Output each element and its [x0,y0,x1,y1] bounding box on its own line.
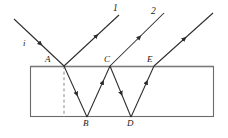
ray-1-label: 1 [113,4,118,14]
point-label-e: E [147,55,153,64]
emergent-ray-2 [110,13,164,66]
internal-ray-d-e [131,66,154,117]
point-label-a: A [45,55,51,64]
point-label-b: B [83,119,89,128]
internal-ray-a-b [64,66,87,117]
ray-2-label: 2 [151,7,156,17]
internal-ray-c-d [110,66,131,117]
internal-ray-b-c [87,66,110,117]
point-label-d: D [127,119,134,128]
glass-slab [31,67,214,117]
incident-ray-label: i [23,39,26,48]
optics-diagram [0,0,228,138]
point-label-c: C [104,55,110,64]
incident-ray [14,19,64,66]
emergent-ray-3 [154,13,213,66]
reflected-ray-1 [64,15,119,66]
